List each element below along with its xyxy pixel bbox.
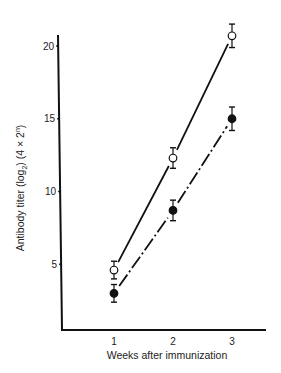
y-tick-label: 15 <box>44 113 56 124</box>
open-circle-marker <box>169 154 177 162</box>
plot-series <box>110 24 236 302</box>
axes: 5101520123 <box>43 35 266 347</box>
y-axis-title-mid: ) (4 × 2 <box>14 132 26 166</box>
series-line-segment <box>118 166 169 262</box>
x-tick-label: 3 <box>229 336 235 347</box>
y-axis-title-end: ) <box>14 125 26 129</box>
series-line-segment <box>119 218 168 286</box>
y-tick-label: 5 <box>52 259 58 270</box>
filled-circle-marker <box>110 290 118 298</box>
series-filled-circles <box>110 107 236 302</box>
open-circle-marker <box>228 32 236 40</box>
y-axis-title-main: Antibody titer (log <box>14 169 26 251</box>
x-axis-title: Weeks after immunization <box>107 349 228 361</box>
x-tick-label: 1 <box>111 336 117 347</box>
y-tick-label: 20 <box>43 41 55 52</box>
chart: 5101520123 Weeks after immunization Anti… <box>0 0 281 373</box>
y-tick-label: 10 <box>45 186 57 197</box>
y-axis-title: Antibody titer (log2) (4 × 2n) <box>14 125 28 252</box>
y-axis-line <box>58 35 62 330</box>
x-tick-label: 2 <box>170 336 176 347</box>
series-line-segment <box>178 126 227 203</box>
filled-circle-marker <box>169 207 177 215</box>
series-open-circles <box>110 24 236 279</box>
open-circle-marker <box>110 266 118 274</box>
axis-labels: Weeks after immunization Antibody titer … <box>14 125 227 361</box>
filled-circle-marker <box>228 115 236 123</box>
series-line-segment <box>177 44 228 150</box>
